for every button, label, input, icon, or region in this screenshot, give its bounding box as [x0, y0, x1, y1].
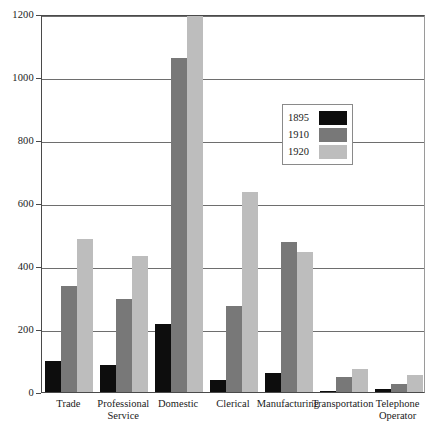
- y-tick-label-800: 800: [0, 136, 34, 146]
- y-tick-label-0: 0: [0, 388, 34, 398]
- y-tick-label-200: 200: [0, 325, 34, 335]
- bar-group: [97, 16, 152, 392]
- bar: [45, 361, 61, 392]
- y-tick-label-1200: 1200: [0, 10, 34, 20]
- bar-group: [42, 16, 97, 392]
- bar: [171, 58, 187, 392]
- bar-group: [371, 16, 425, 392]
- bar: [407, 375, 423, 392]
- bar: [187, 15, 203, 392]
- bar: [116, 299, 132, 392]
- legend-label-1920: 1920: [288, 146, 309, 157]
- bar: [132, 256, 148, 392]
- bar: [281, 242, 297, 392]
- legend-swatch-1895: [319, 111, 347, 125]
- bar-group: [207, 16, 262, 392]
- legend: 1895 1910 1920: [282, 104, 353, 165]
- bar: [336, 377, 352, 392]
- bar: [265, 373, 281, 392]
- y-tick-label-600: 600: [0, 199, 34, 209]
- legend-swatch-1910: [319, 128, 347, 142]
- x-axis-label: Telephone Operator: [361, 398, 433, 421]
- legend-label-1895: 1895: [288, 112, 309, 123]
- legend-item-1910[interactable]: 1910: [288, 126, 347, 143]
- bar-chart: 020040060080010001200 TradeProfessional …: [0, 0, 433, 432]
- legend-item-1895[interactable]: 1895: [288, 109, 347, 126]
- bar: [375, 389, 391, 392]
- bar-group: [261, 16, 316, 392]
- bar: [210, 380, 226, 392]
- legend-swatch-1920: [319, 145, 347, 159]
- legend-label-1910: 1910: [288, 129, 309, 140]
- legend-item-1920[interactable]: 1920: [288, 143, 347, 160]
- plot-area: [41, 15, 425, 393]
- bar: [155, 324, 171, 392]
- y-tick-label-1000: 1000: [0, 73, 34, 83]
- bar: [352, 369, 368, 392]
- y-tick-mark-0: [36, 393, 41, 394]
- bar-group: [152, 16, 207, 392]
- y-tick-label-400: 400: [0, 262, 34, 272]
- bar: [242, 192, 258, 392]
- bar: [297, 252, 313, 392]
- bar: [77, 239, 93, 392]
- bar: [391, 384, 407, 392]
- bar: [226, 306, 242, 392]
- bar-group: [316, 16, 371, 392]
- bar: [320, 391, 336, 392]
- bar: [100, 365, 116, 392]
- bar: [61, 286, 77, 392]
